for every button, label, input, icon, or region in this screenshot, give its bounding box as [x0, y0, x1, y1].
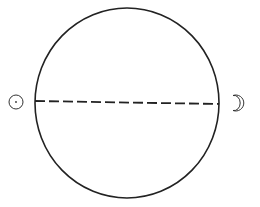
dashed-diameter-line	[35, 101, 219, 104]
diagram-canvas	[0, 0, 260, 207]
crescent-moon-icon	[233, 95, 244, 111]
sun-icon	[9, 95, 23, 109]
diagram-svg	[0, 0, 260, 207]
